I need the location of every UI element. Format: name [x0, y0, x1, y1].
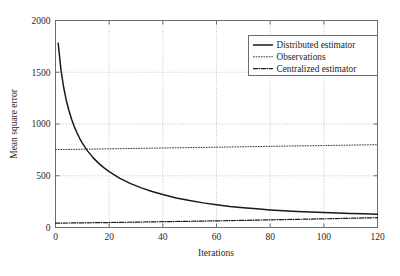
x-tick-label: 120	[370, 232, 385, 242]
y-tick-label: 2000	[32, 16, 51, 26]
figure-container: 020406080100120 0500100015002000 Iterati…	[0, 0, 400, 276]
legend-item-label[interactable]: Observations	[277, 52, 326, 62]
x-tick-label: 60	[212, 232, 222, 242]
legend-item-label[interactable]: Centralized estimator	[277, 64, 358, 74]
x-tick-label: 100	[317, 232, 332, 242]
y-tick-label: 1000	[32, 119, 51, 129]
y-tick-label: 1500	[32, 68, 51, 78]
x-tick-label: 40	[158, 232, 168, 242]
x-axis-title: Iterations	[198, 248, 234, 258]
y-tick-label: 500	[36, 171, 51, 181]
x-tick-label: 20	[104, 232, 114, 242]
x-tick-label: 80	[265, 232, 275, 242]
chart-legend[interactable]: Distributed estimatorObservationsCentral…	[249, 36, 378, 76]
y-axis-title: Mean square error	[9, 88, 19, 158]
x-tick-label: 0	[53, 232, 58, 242]
y-tick-label: 0	[46, 223, 51, 233]
legend-item-label[interactable]: Distributed estimator	[277, 40, 357, 50]
mean-square-error-line-chart: 020406080100120 0500100015002000 Iterati…	[0, 0, 400, 276]
